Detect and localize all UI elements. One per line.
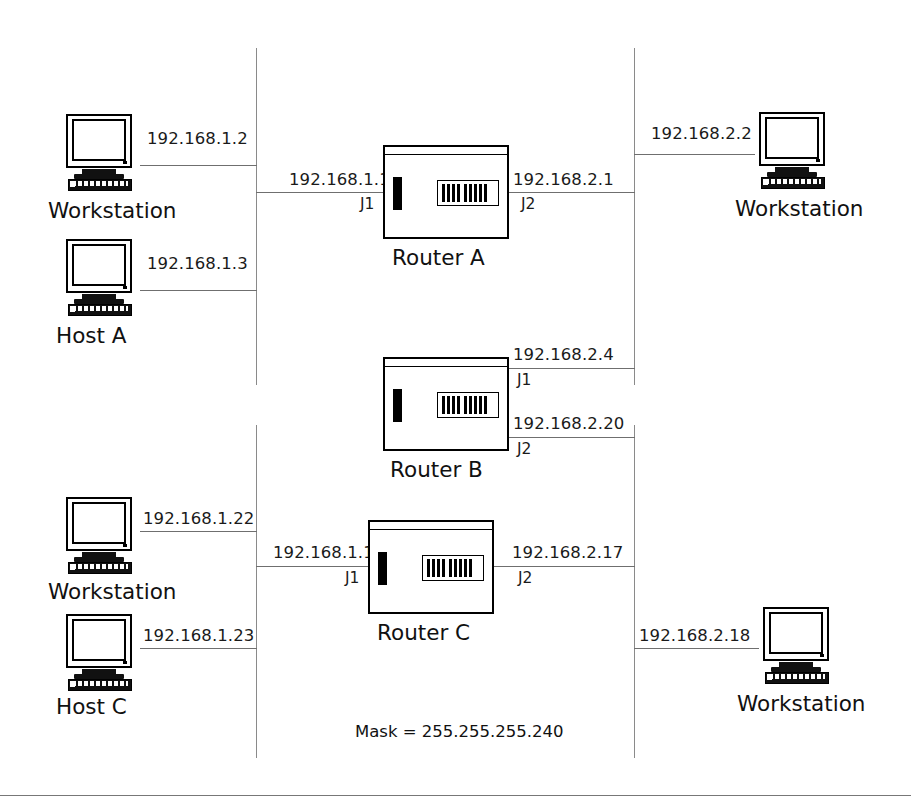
- subnet-mask-note: Mask = 255.255.255.240: [355, 724, 564, 741]
- ip-label-ws-4: 192.168.2.18: [639, 628, 750, 645]
- router-label-router-c: Router C: [377, 622, 470, 644]
- node-label-ws-2: Workstation: [735, 198, 863, 220]
- workstation-icon-ws-4: [757, 607, 839, 685]
- router-label-router-b: Router B: [390, 459, 483, 481]
- link-ws-2-to-right-backbone: [634, 154, 755, 155]
- jack-label-router-a-j1: J1: [360, 197, 374, 213]
- router-icon-router-b: [383, 357, 509, 451]
- link-router-b-j1-to-right-backbone: [509, 368, 635, 369]
- node-label-host-c: Host C: [56, 696, 127, 718]
- link-router-c-j1-to-left-backbone: [256, 566, 369, 567]
- node-label-ws-4: Workstation: [737, 693, 865, 715]
- right-backbone-lower: [634, 425, 635, 758]
- router-a-indicator-panel: [437, 180, 499, 206]
- network-diagram-canvas: 192.168.1.2 Workstation 192.168.1.3 Host…: [0, 0, 911, 803]
- router-c-lid-line: [370, 529, 492, 530]
- link-router-a-j1-to-left-backbone: [256, 192, 384, 193]
- jack-label-router-b-j1: J1: [517, 373, 531, 389]
- ip-label-ws-2: 192.168.2.2: [651, 126, 752, 143]
- link-router-a-j2-to-right-backbone: [509, 192, 635, 193]
- ip-label-ws-1: 192.168.1.2: [147, 131, 248, 148]
- router-a-port-slot: [393, 177, 402, 210]
- router-c-indicator-panel: [422, 555, 484, 581]
- link-host-a-to-left-backbone: [140, 290, 257, 291]
- router-icon-router-c: [368, 520, 494, 614]
- workstation-icon-ws-3: [60, 497, 142, 575]
- link-host-c-to-left-backbone: [140, 648, 257, 649]
- node-label-ws-3: Workstation: [48, 581, 176, 603]
- link-ws-1-to-left-backbone: [140, 165, 257, 166]
- workstation-icon-host-c: [60, 614, 142, 692]
- jack-label-router-c-j1: J1: [345, 571, 359, 587]
- link-ws-3-to-left-backbone: [140, 531, 257, 532]
- node-label-ws-1: Workstation: [48, 200, 176, 222]
- jack-label-router-b-j2: J2: [517, 442, 531, 458]
- ip-label-host-a: 192.168.1.3: [147, 256, 248, 273]
- router-icon-router-a: [383, 145, 509, 239]
- router-a-lid-line: [385, 154, 507, 155]
- link-router-b-j2-to-right-backbone: [509, 437, 635, 438]
- footer-divider: [0, 795, 911, 796]
- link-router-c-j2-to-right-backbone: [494, 566, 635, 567]
- router-c-port-slot: [378, 552, 387, 585]
- workstation-icon-ws-1: [60, 114, 142, 192]
- router-b-lid-line: [385, 366, 507, 367]
- router-label-router-a: Router A: [392, 247, 485, 269]
- left-backbone-upper: [256, 48, 257, 385]
- ip-label-router-c-j2: 192.168.2.17: [512, 545, 623, 562]
- left-backbone-lower: [256, 425, 257, 758]
- router-b-indicator-panel: [437, 392, 499, 418]
- ip-label-router-a-j2: 192.168.2.1: [513, 172, 614, 189]
- ip-label-host-c: 192.168.1.23: [143, 628, 254, 645]
- ip-label-ws-3: 192.168.1.22: [143, 511, 254, 528]
- jack-label-router-c-j2: J2: [518, 571, 532, 587]
- ip-label-router-b-j1: 192.168.2.4: [513, 347, 614, 364]
- router-b-port-slot: [393, 389, 402, 422]
- node-label-host-a: Host A: [56, 325, 127, 347]
- ip-label-router-a-j1: 192.168.1.1: [289, 172, 390, 189]
- workstation-icon-ws-2: [753, 112, 835, 190]
- ip-label-router-b-j2: 192.168.2.20: [513, 416, 624, 433]
- workstation-icon-host-a: [60, 239, 142, 317]
- right-backbone-upper: [634, 48, 635, 385]
- link-ws-4-to-right-backbone: [634, 648, 759, 649]
- jack-label-router-a-j2: J2: [521, 197, 535, 213]
